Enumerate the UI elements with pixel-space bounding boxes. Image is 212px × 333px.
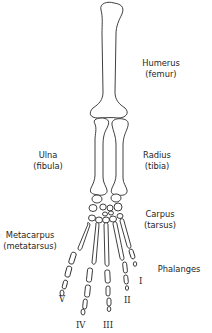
digit-numeral-III: III [103, 320, 113, 330]
radius-alt-name: (tibia) [137, 161, 177, 172]
limb-skeleton-diagram: Humerus (femur) Ulna (fibula) Radius (ti… [0, 0, 212, 333]
digit-numeral-II: II [124, 295, 131, 305]
humerus-alt-name: (femur) [136, 69, 186, 80]
digit-numeral-IV: IV [76, 320, 86, 330]
metacarpus-alt-name: (metatarsus) [2, 241, 58, 252]
label-radius: Radius (tibia) [137, 150, 177, 171]
phalanges-name: Phalanges [154, 264, 204, 275]
label-humerus: Humerus (femur) [136, 58, 186, 79]
radius-name: Radius [137, 150, 177, 161]
label-metacarpus: Metacarpus (metatarsus) [2, 230, 58, 251]
radius-bone [111, 119, 128, 196]
label-carpus: Carpus (tarsus) [140, 209, 180, 230]
ulna-alt-name: (fibula) [28, 161, 68, 172]
humerus-bone [90, 2, 127, 118]
ulna-bone [90, 118, 108, 195]
humerus-name: Humerus [136, 58, 186, 69]
carpus-name: Carpus [140, 209, 180, 220]
label-ulna: Ulna (fibula) [28, 150, 68, 171]
metacarpus-name: Metacarpus [2, 230, 58, 241]
ulna-name: Ulna [28, 150, 68, 161]
carpus-alt-name: (tarsus) [140, 220, 180, 231]
digit-numeral-V: V [59, 294, 65, 304]
digit-numeral-I: I [139, 276, 142, 286]
label-phalanges: Phalanges [154, 264, 204, 275]
